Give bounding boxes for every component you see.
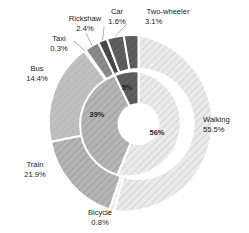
label-bicycle-name: Bicycle [88, 208, 112, 217]
label-car-pct: 1.6% [108, 17, 126, 26]
label-two-wheeler-name: Two-wheeler [146, 7, 190, 16]
donut-hole [118, 103, 160, 145]
inner-label-public: 39% [90, 110, 105, 119]
label-walking-name: Walking [203, 115, 230, 124]
nested-donut-chart: 56% 39% 5% Walking 55.5% Bicycle 0.8% Tr… [0, 0, 249, 233]
chart-canvas: 56% 39% 5% Walking 55.5% Bicycle 0.8% Tr… [0, 0, 249, 233]
label-bus-pct: 14.4% [26, 74, 48, 83]
label-taxi-pct: 0.3% [50, 44, 68, 53]
label-train-name: Train [26, 160, 43, 169]
label-taxi-name: Taxi [52, 34, 66, 43]
label-bus-name: Bus [30, 64, 43, 73]
inner-label-private: 5% [122, 83, 133, 92]
label-rickshaw-pct: 2.4% [76, 24, 94, 33]
label-two-wheeler-pct: 3.1% [145, 17, 163, 26]
label-train-pct: 21.9% [24, 170, 46, 179]
label-rickshaw-name: Rickshaw [69, 14, 102, 23]
label-walking-pct: 55.5% [203, 125, 225, 134]
inner-label-active: 56% [150, 128, 165, 137]
label-car-name: Car [111, 7, 124, 16]
label-bicycle-pct: 0.8% [91, 218, 109, 227]
